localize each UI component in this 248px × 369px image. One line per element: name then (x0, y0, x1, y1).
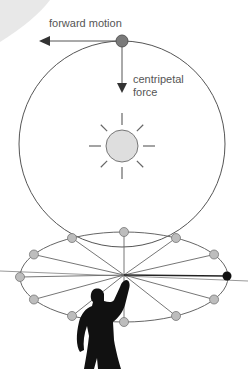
sling-position-dot (172, 311, 181, 320)
sling-spoke (34, 275, 124, 300)
sling-position-dot (172, 234, 181, 243)
sling-position-dot (120, 318, 129, 327)
sling-position-dot (29, 250, 38, 259)
centripetal-force-diagram (0, 0, 248, 369)
sling-spoke (124, 275, 176, 316)
forward-motion-arrowhead-icon (39, 36, 50, 46)
sun-ray (101, 125, 107, 131)
corner-decoration (0, 0, 50, 42)
sling-position-dot (210, 295, 219, 304)
sun-ray (137, 161, 143, 167)
orbiting-body (116, 35, 128, 47)
forward-motion-label: forward motion (49, 17, 122, 30)
sling-spoke (34, 255, 124, 276)
centripetal-arrowhead-icon (117, 83, 127, 93)
centripetal-label-line1: centripetal (133, 73, 184, 86)
sling-position-dot (16, 273, 25, 282)
sling-end-ball (223, 272, 232, 281)
sling-string (124, 275, 226, 276)
sling-position-dot (68, 311, 77, 320)
sun-ray (101, 161, 107, 167)
sling-position-dot (68, 234, 77, 243)
sling-spoke (20, 275, 124, 277)
centripetal-force-label: centripetal force (133, 73, 184, 99)
sling-spoke (124, 255, 214, 276)
sun-body (106, 130, 138, 162)
centripetal-label-line2: force (133, 86, 184, 99)
sling-position-dot (29, 295, 38, 304)
sun-ray (137, 125, 143, 131)
sling-position-dot (120, 228, 129, 237)
sling-position-dot (210, 250, 219, 259)
